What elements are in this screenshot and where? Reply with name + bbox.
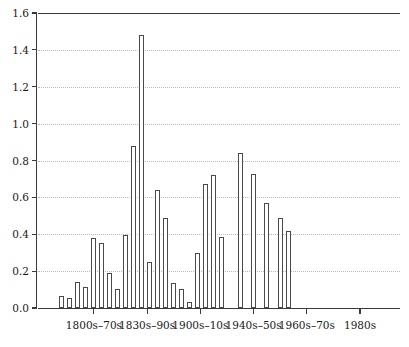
bar — [286, 231, 291, 308]
bar — [171, 283, 176, 308]
y-axis-label: 0.2 — [12, 266, 29, 277]
x-axis-label: 1900s–10s — [172, 320, 228, 331]
y-axis-label: 1.2 — [12, 82, 29, 93]
x-axis-tick — [200, 309, 201, 314]
y-axis-label: 0.8 — [12, 156, 29, 167]
bar — [238, 153, 243, 308]
bar — [115, 289, 120, 308]
y-axis-tick — [32, 197, 37, 198]
y-axis-label: 1.0 — [12, 119, 29, 130]
bar — [83, 287, 88, 308]
x-axis-tick — [306, 309, 307, 314]
x-axis-tick — [359, 309, 360, 314]
x-axis-label: 1980s — [344, 320, 376, 331]
bar — [251, 174, 256, 308]
bar — [91, 238, 96, 308]
y-axis-tick — [32, 234, 37, 235]
bar — [278, 218, 283, 308]
x-axis-tick — [93, 309, 94, 314]
bar — [195, 253, 200, 308]
x-axis-label: 1800s–70s — [66, 320, 122, 331]
bar — [107, 273, 112, 308]
y-axis-label: 1.4 — [12, 45, 29, 56]
y-axis-tick — [32, 86, 37, 87]
bar — [139, 35, 144, 308]
y-axis-tick — [32, 307, 37, 308]
x-axis-line — [38, 308, 400, 309]
bars-layer — [38, 13, 400, 308]
y-axis-tick — [32, 160, 37, 161]
bar — [163, 218, 168, 308]
x-axis-tick — [253, 309, 254, 314]
bar — [99, 243, 104, 308]
y-axis-label: 1.6 — [12, 8, 29, 19]
y-axis-label: 0.6 — [12, 192, 29, 203]
y-axis-tick — [32, 12, 37, 13]
bar — [147, 262, 152, 308]
y-axis-tick — [32, 49, 37, 50]
y-axis-tick — [32, 271, 37, 272]
bar — [203, 184, 208, 308]
x-axis-label: 1960s–70s — [279, 320, 335, 331]
bar — [264, 203, 269, 308]
bar — [179, 289, 184, 308]
bar — [131, 146, 136, 308]
x-axis-tick — [147, 309, 148, 314]
bar-chart: 0.00.20.40.60.81.01.21.41.6 1800s–70s183… — [0, 0, 409, 347]
x-axis-label: 1940s–50s — [226, 320, 282, 331]
bar — [155, 190, 160, 308]
y-axis: 0.00.20.40.60.81.01.21.41.6 — [0, 0, 37, 347]
bar — [219, 237, 224, 308]
bar — [67, 298, 72, 308]
bar — [123, 235, 128, 308]
y-axis-label: 0.4 — [12, 229, 29, 240]
y-axis-tick — [32, 123, 37, 124]
bar — [59, 296, 64, 308]
bar — [211, 175, 216, 308]
y-axis-label: 0.0 — [12, 303, 29, 314]
bar — [75, 282, 80, 308]
x-axis-label: 1830s–90s — [119, 320, 175, 331]
